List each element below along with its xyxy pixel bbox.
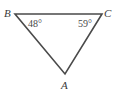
angle-label-b: 48° [28, 18, 42, 29]
vertex-label-c: C [104, 7, 112, 19]
vertex-label-a: A [60, 79, 68, 91]
angle-label-c: 59° [78, 18, 92, 29]
triangle-diagram: B C A 48° 59° [0, 0, 115, 100]
vertex-label-b: B [4, 7, 11, 19]
